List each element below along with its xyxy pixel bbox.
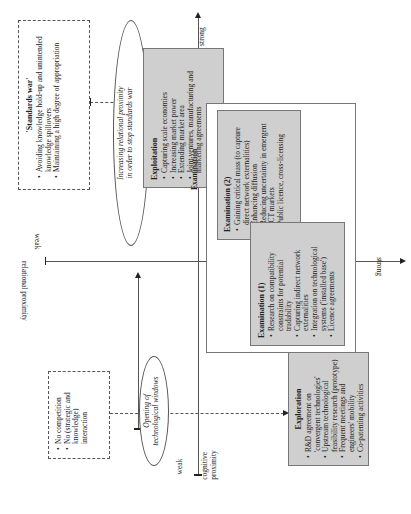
relational-strong-label: strong — [375, 257, 384, 276]
axis-arrow-right-icon — [400, 258, 406, 264]
exploration-box: Exploration R&D agreement on 'convergent… — [288, 352, 369, 466]
axis-tick-weak-relational — [45, 257, 46, 265]
examination-1-item: Integration on technological systems ('i… — [310, 230, 327, 331]
examination-2-item: Reducing uncertainty in emergent ICT mar… — [260, 118, 277, 225]
standards-war-item: Avoiding knowledge hold-up and unintende… — [36, 31, 53, 172]
no-competition-box: No competition No (strategic and knowled… — [48, 371, 110, 459]
examination-1-item: Licence agreements — [328, 230, 337, 331]
standards-war-title: 'Standards war' — [25, 31, 34, 179]
cognitive-strong-label: strong — [197, 27, 206, 46]
examination-label: Examination — [190, 149, 199, 190]
exploration-item: R&D agreement on 'convergent technologie… — [305, 359, 322, 452]
exploration-title: Exploration — [294, 359, 303, 459]
examination-1-box: Examination (1) Research on compatibilit… — [250, 222, 345, 346]
oval-relational-line1: Increasing relational proximity — [116, 28, 125, 238]
exploitation-item: Capturing scale economies — [161, 56, 170, 173]
technological-windows-oval: Opening of technological windows — [139, 356, 169, 466]
examination-1-title: Examination (1) — [257, 230, 266, 338]
exploitation-title: Exploitation — [150, 56, 159, 180]
examination-2-box: Examination (2) Gaining critical mass (t… — [217, 110, 301, 240]
oval-relational-line2: in order to stop standards war — [125, 28, 134, 238]
examination-1-item: Research on compatibility constraints fo… — [268, 230, 294, 331]
cognitive-label-line2: proximity — [209, 450, 218, 480]
oval-windows-line2: technological windows — [151, 361, 160, 461]
relational-weak-label: weak — [33, 234, 42, 250]
axis-arrow-up-icon — [195, 12, 201, 18]
standards-connector-tick — [90, 98, 91, 106]
exploration-item: Upstream technological feasibility resea… — [322, 359, 339, 452]
relational-axis-label: relational proximity — [20, 261, 29, 321]
no-competition-item: No (strategic and knowledge) interaction — [64, 379, 90, 444]
standards-war-box: 'Standards war' Avoiding knowledge hold-… — [18, 20, 90, 190]
no-competition-connector — [110, 413, 284, 414]
windows-arrow-icon — [135, 272, 141, 278]
exploration-item: Frequent meetings and engineers' mobilit… — [339, 359, 356, 452]
cognitive-label-line1: cognitive — [200, 450, 209, 480]
cognitive-weak-label: weak — [175, 459, 184, 475]
exploitation-item: Extending market area — [178, 56, 187, 173]
examination-2-title: Examination (2) — [223, 118, 232, 232]
oval-windows-line1: Opening of — [142, 361, 151, 461]
standards-war-item: Maintaining a high degree of appropriati… — [53, 31, 62, 172]
cognitive-axis-label: cognitive proximity — [206, 442, 230, 482]
examination-1-item: Capturing indirect network externalities — [293, 230, 310, 331]
exploration-item: Co-patenting activities — [356, 359, 365, 452]
examination-2-item: Gaining critical mass (to capture direct… — [234, 118, 251, 225]
cognitive-weak-label-wrap: weak — [178, 458, 188, 478]
examination-2-item: Public licence, cross-licensing — [277, 118, 286, 225]
